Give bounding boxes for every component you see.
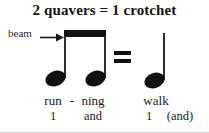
count-crotchet-offbeat: (and) [159, 109, 201, 124]
quaver-stem-1 [64, 36, 66, 78]
word-ning: ning [76, 93, 110, 109]
count-crotchet-beat: 1 [140, 109, 158, 124]
count-quaver-offbeat: and [76, 109, 110, 124]
count-quaver-beat: 1 [40, 109, 66, 124]
beam-callout-label: beam [8, 27, 32, 39]
word-run: run [38, 93, 68, 109]
equals-sign [114, 50, 131, 65]
crotchet-stem [163, 33, 165, 80]
quaver-crotchet-diagram: 2 quavers = 1 crotchet beam run - ning w… [0, 0, 209, 133]
bottom-edge-line [0, 132, 209, 133]
beam-bar [64, 30, 106, 37]
diagram-title: 2 quavers = 1 crotchet [0, 2, 209, 19]
right-arrow-icon [40, 33, 65, 42]
word-walk: walk [138, 93, 174, 109]
quaver-stem-2 [104, 36, 106, 78]
